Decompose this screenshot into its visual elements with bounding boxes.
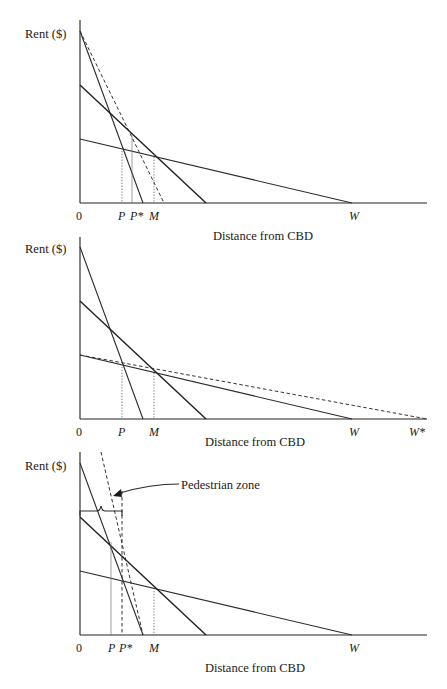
tick-m: M: [148, 641, 160, 655]
y-axis-label: Rent ($): [25, 27, 66, 41]
flat-curve-shifted: [80, 355, 427, 419]
tick-w: W: [349, 209, 360, 223]
x-axis-label: Distance from CBD: [205, 435, 305, 449]
pedestrian-zone-label: Pedestrian zone: [181, 478, 260, 492]
tick-p: P: [107, 641, 116, 655]
pedestrian-zone-brace: [80, 506, 122, 516]
tick-w: W: [349, 641, 360, 655]
panel-2: Rent ($) 0 P M W W* Distance from CBD: [25, 237, 427, 449]
origin-label: 0: [76, 641, 82, 655]
y-axis-label: Rent ($): [25, 242, 66, 256]
tick-m: M: [148, 209, 160, 223]
tick-p: P: [117, 425, 126, 439]
steep-curve: [80, 247, 143, 419]
x-axis-label: Distance from CBD: [213, 229, 313, 243]
pedestrian-zone-arrow: [120, 484, 179, 493]
steep-curve: [80, 31, 143, 203]
flat-curve: [80, 355, 352, 419]
tick-p-star: P*: [129, 209, 143, 223]
tick-p-star: P*: [118, 641, 132, 655]
steep-curve: [80, 463, 143, 635]
tick-w: W: [349, 425, 360, 439]
flat-curve: [80, 139, 352, 203]
origin-label: 0: [76, 209, 82, 223]
arrowhead-icon: [113, 489, 122, 497]
panel-3: Rent ($) Pedestrian zone 0 P P* M W Dist…: [25, 452, 427, 675]
y-axis-label: Rent ($): [25, 459, 66, 473]
panel-1: Rent ($) 0 P P* M W Distance from CBD: [25, 20, 427, 243]
origin-label: 0: [76, 425, 82, 439]
tick-m: M: [148, 425, 160, 439]
x-axis-label: Distance from CBD: [205, 661, 305, 675]
flat-curve: [80, 571, 352, 635]
tick-w-star: W*: [409, 425, 425, 439]
tick-p: P: [117, 209, 126, 223]
bid-rent-figure: Rent ($) 0 P P* M W Distance from CBD Re…: [0, 0, 447, 689]
